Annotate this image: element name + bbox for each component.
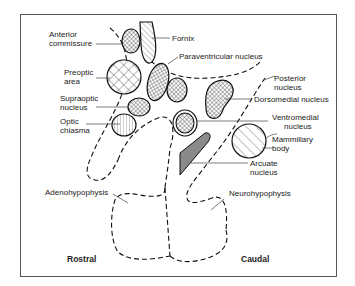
mammillary-body-shape — [232, 124, 266, 158]
hypothalamus-diagram: Anteriorcommissure Fornix Paraventricula… — [0, 0, 355, 286]
label-paraventricular-nucleus: Paraventricular nucleus — [179, 52, 263, 61]
ventromedial-nucleus-shape — [173, 110, 197, 136]
label-neurohypophysis: Neurohypophysis — [229, 189, 291, 198]
label-dorsomedial-nucleus: Dorsomedial nucleus — [254, 95, 329, 104]
label-caudal: Caudal — [241, 254, 269, 264]
anterior-commissure-shape — [122, 29, 140, 53]
label-fornix: Fornix — [172, 34, 194, 43]
supraoptic-nucleus-shape — [128, 98, 150, 116]
label-rostral: Rostral — [67, 254, 96, 264]
preoptic-area-shape — [107, 60, 141, 94]
label-arcuate-nucleus: Arcuatenucleus — [250, 159, 278, 177]
optic-chiasma-shape — [112, 114, 136, 136]
periventricular-nucleus-shape — [167, 78, 187, 102]
label-posterior-nucleus: Posteriornucleus — [274, 74, 306, 92]
label-adenohypophysis: Adenohypophysis — [45, 188, 108, 197]
